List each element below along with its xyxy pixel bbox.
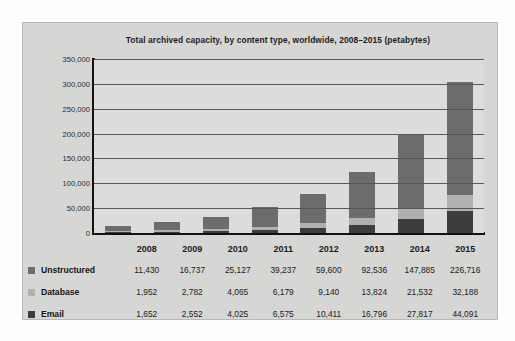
bar-group [94,59,484,233]
table-cell: 13,824 [352,287,398,297]
bar-segment-email [447,211,473,233]
y-axis-tick-label: 350,000 [32,55,90,64]
legend-item-database[interactable]: Database [28,287,124,297]
gridline [94,183,484,184]
table-header-cell: 2015 [443,244,489,254]
bar-segment-email [252,230,278,233]
stacked-bar[interactable] [252,207,278,233]
table-header-row: 20082009201020112012201320142015 [28,239,488,259]
table-cell: 4,025 [215,309,261,319]
y-axis-tick-label: 100,000 [32,179,90,188]
y-axis-tick-label: 150,000 [32,154,90,163]
y-axis-tick-label: 200,000 [32,129,90,138]
y-axis-tick-label: 250,000 [32,104,90,113]
legend-swatch-icon [28,289,35,296]
bar-segment-unstructured [203,217,229,229]
bar-slot [435,59,484,233]
table-row: Database1,9522,7824,0656,1799,14013,8242… [28,281,488,303]
bar-slot [94,59,143,233]
table-row: Unstructured11,43016,73725,12739,23759,6… [28,259,488,281]
table-cell: 2,782 [170,287,216,297]
bar-segment-unstructured [349,172,375,218]
table-header-cell: 2014 [397,244,443,254]
legend-label: Unstructured [41,265,95,275]
plot-area [94,59,484,233]
table-cell: 1,952 [124,287,170,297]
table-cell: 25,127 [215,265,261,275]
table-cell: 27,817 [397,309,443,319]
y-axis-labels: 350,000300,000250,000200,000150,000100,0… [30,59,90,233]
bar-segment-email [154,232,180,233]
gridline [94,208,484,209]
table-cell: 147,885 [397,265,443,275]
bar-segment-unstructured [154,222,180,230]
gridline [94,109,484,110]
gridline [94,59,484,60]
table-header-cell: 2011 [261,244,307,254]
chart-title: Total archived capacity, by content type… [78,35,478,45]
table-cell: 226,716 [443,265,489,275]
bar-slot [192,59,241,233]
bar-segment-email [203,231,229,233]
table-header-cell: 2012 [306,244,352,254]
bar-segment-email [349,225,375,233]
bar-segment-email [398,219,424,233]
bar-segment-unstructured [447,82,473,195]
stacked-bar[interactable] [203,217,229,234]
table-cell: 9,140 [306,287,352,297]
y-axis-tick-label: 50,000 [32,204,90,213]
bar-segment-database [349,218,375,225]
gridline [94,134,484,135]
gridline [94,158,484,159]
table-header-cell: 2010 [215,244,261,254]
bar-slot [240,59,289,233]
gridline [94,84,484,85]
legend-item-unstructured[interactable]: Unstructured [28,265,124,275]
bar-segment-email [105,232,131,233]
legend-swatch-icon [28,267,35,274]
bar-segment-unstructured [398,135,424,209]
table-header-cell: 2013 [352,244,398,254]
table-cell: 32,188 [443,287,489,297]
table-cell: 6,179 [261,287,307,297]
legend-label: Database [41,287,79,297]
bar-segment-unstructured [252,207,278,227]
table-cell: 16,796 [352,309,398,319]
legend-item-email[interactable]: Email [28,309,124,319]
bar-segment-email [300,228,326,233]
stacked-bar[interactable] [300,194,326,233]
table-cell: 16,737 [170,265,216,275]
table-header-cell: 2008 [124,244,170,254]
chart-screenshot: Total archived capacity, by content type… [0,0,515,341]
bar-segment-database [398,208,424,219]
y-axis-tick-label: 300,000 [32,79,90,88]
table-header-cell: 2009 [170,244,216,254]
table-cell: 10,411 [306,309,352,319]
table-cell: 59,600 [306,265,352,275]
stacked-bar[interactable] [154,222,180,233]
bar-slot [338,59,387,233]
table-cell: 21,532 [397,287,443,297]
data-table: 20082009201020112012201320142015 Unstruc… [28,239,488,325]
table-cell: 92,536 [352,265,398,275]
table-cell: 1,652 [124,309,170,319]
legend-label: Email [41,309,64,319]
table-cell: 11,430 [124,265,170,275]
table-cell: 2,552 [170,309,216,319]
bar-slot [289,59,338,233]
stacked-bar[interactable] [105,226,131,233]
bar-slot [387,59,436,233]
table-cell: 4,065 [215,287,261,297]
stacked-bar[interactable] [349,172,375,233]
bar-slot [143,59,192,233]
table-cell: 6,575 [261,309,307,319]
legend-swatch-icon [28,311,35,318]
table-cell: 39,237 [261,265,307,275]
y-axis-tick-label: 0 [32,229,90,238]
table-cell: 44,091 [443,309,489,319]
table-row: Email1,6522,5524,0256,57510,41116,79627,… [28,303,488,325]
